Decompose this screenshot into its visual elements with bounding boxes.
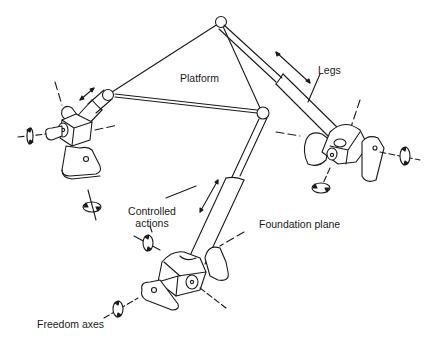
leg-bottom <box>166 118 267 264</box>
label-legs: Legs <box>318 64 341 76</box>
leg-right <box>219 25 342 141</box>
label-controlled-actions: Controlled actions <box>126 205 178 229</box>
label-controlled-actions-line1: Controlled <box>126 205 178 217</box>
diagram-drawing <box>0 0 442 349</box>
tripod-platform-diagram: Platform Legs Controlled actions Foundat… <box>0 0 442 349</box>
label-controlled-actions-line2: actions <box>126 217 178 229</box>
label-platform: Platform <box>180 72 219 84</box>
label-foundation-plane: Foundation plane <box>259 218 340 230</box>
platform-triangle <box>112 22 260 113</box>
platform-joint-right <box>257 107 269 119</box>
base-joint-left <box>18 82 118 220</box>
base-joint-bottom <box>104 226 244 318</box>
base-joint-right <box>276 100 420 193</box>
label-freedom-axes: Freedom axes <box>37 318 104 330</box>
